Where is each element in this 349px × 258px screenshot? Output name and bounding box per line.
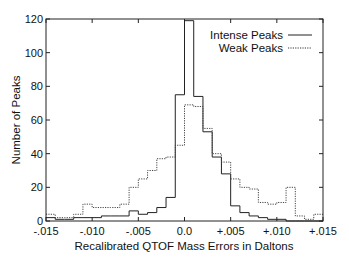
legend-label-intense: Intense Peaks: [210, 29, 283, 41]
series-weak-peaks: [46, 105, 323, 219]
x-tick-label: -.005: [126, 225, 151, 237]
x-tick-label: +.015: [309, 225, 337, 237]
y-tick-label: 20: [31, 181, 43, 193]
x-tick-label: -.010: [80, 225, 105, 237]
y-tick-label: 100: [25, 47, 43, 59]
y-axis-title: Number of Peaks: [10, 75, 22, 164]
x-tick-label: +.005: [217, 225, 245, 237]
y-tick-label: 60: [31, 114, 43, 126]
x-tick-labels: -.015-.010-.0050.0+.005+.010+.015: [33, 225, 336, 237]
legend: Intense Peaks Weak Peaks: [210, 29, 312, 54]
histogram-chart: -.015-.010-.0050.0+.005+.010+.015 020406…: [0, 0, 349, 258]
y-tick-labels: 020406080100120: [25, 13, 43, 227]
y-tick-label: 0: [37, 215, 43, 227]
x-axis-title: Recalibrated QTOF Mass Errors in Daltons: [75, 240, 294, 252]
y-tick-label: 80: [31, 80, 43, 92]
y-tick-label: 120: [25, 13, 43, 25]
legend-label-weak: Weak Peaks: [219, 42, 284, 54]
y-tick-label: 40: [31, 148, 43, 160]
x-tick-label: 0.0: [177, 225, 192, 237]
x-tick-label: +.010: [263, 225, 291, 237]
